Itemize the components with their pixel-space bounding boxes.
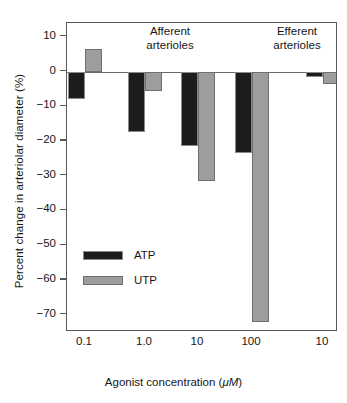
group-label-afferent-line2: arterioles [146,39,193,51]
bar-atp-10 [306,72,323,77]
y-axis-tick-label: −40 [36,203,56,215]
x-axis-title: Agonist concentration (μM) [0,376,347,388]
bar-utp-100 [252,72,269,322]
bar-atp-0.1 [68,72,85,100]
x-axis-tick-label: 100 [241,336,260,348]
x-axis-tick-label: 10 [191,336,204,348]
bar-atp-10 [181,72,198,147]
legend-label-utp: UTP [134,275,157,287]
y-axis-tick-label: 10 [43,30,56,42]
y-axis-tick-label: −60 [36,273,56,285]
group-label-afferent: Afferent arterioles [146,25,193,52]
y-axis-tick-label: −70 [36,308,56,320]
chart-legend: ATP UTP [83,247,157,297]
bar-atp-1.0 [128,72,145,133]
bar-utp-10 [323,72,337,84]
bar-utp-0.1 [85,49,102,72]
group-label-afferent-line1: Afferent [150,25,190,37]
group-label-efferent-line2: arterioles [273,39,320,51]
bar-chart-figure: Percent change in arteriolar diameter (%… [0,0,347,403]
x-axis-title-plain: Agonist concentration ( [105,376,223,388]
y-axis-tick-label: −30 [36,169,56,181]
x-axis-title-units: μM [222,376,238,388]
legend-label-atp: ATP [134,250,156,262]
utp-swatch-icon [83,276,123,285]
x-axis-tick-label: 0.1 [76,336,92,348]
group-label-efferent-line1: Efferent [277,25,317,37]
x-axis-title-tail: ) [238,376,242,388]
y-axis-tick-label: 0 [50,65,56,77]
y-axis-tick-label: −10 [36,99,56,111]
legend-item-atp: ATP [83,247,157,264]
group-label-efferent: Efferent arterioles [273,25,320,52]
legend-item-utp: UTP [83,272,157,289]
x-axis-tick-label: 1.0 [136,336,152,348]
bar-atp-100 [235,72,252,154]
plot-area: Afferent arterioles Efferent arterioles … [66,22,337,331]
x-axis-tick-label: 10 [316,336,329,348]
y-axis-tick-label: −50 [36,238,56,250]
bar-utp-1.0 [145,72,162,91]
y-axis-tick-label: −20 [36,134,56,146]
atp-swatch-icon [83,251,123,260]
y-axis-title: Percent change in arteriolar diameter (%… [13,21,25,341]
bar-utp-10 [198,72,215,181]
